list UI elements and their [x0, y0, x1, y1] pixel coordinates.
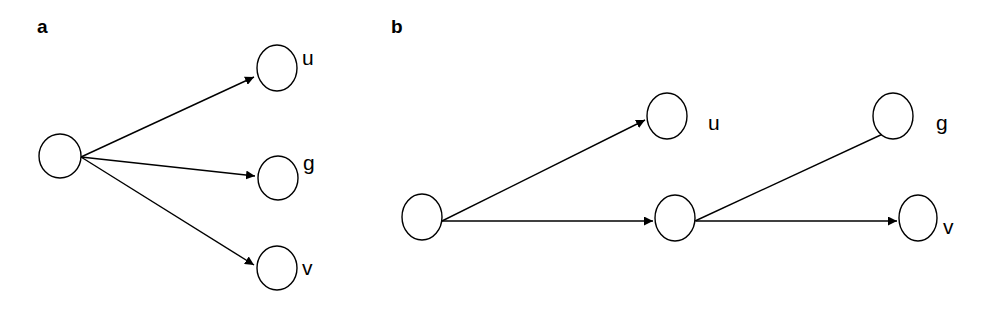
panel-label-a: a: [37, 16, 48, 37]
node-g: [873, 93, 913, 139]
node-label-v: v: [302, 256, 313, 279]
node-v: [899, 195, 937, 241]
panel-b: b u g v: [391, 16, 954, 241]
node-label-g: g: [303, 151, 315, 174]
diagram-canvas: a u g v b u g v: [0, 0, 990, 309]
node-v: [257, 246, 297, 290]
panel-a: a u g v: [37, 16, 315, 290]
edge-mid-g: [695, 120, 913, 221]
node-label-u: u: [708, 111, 720, 134]
node-root: [402, 194, 442, 240]
node-u: [647, 93, 687, 139]
node-root: [39, 134, 81, 178]
edge-root-u: [442, 120, 645, 221]
node-mid: [655, 195, 695, 241]
node-label-v: v: [943, 215, 954, 238]
node-u: [257, 45, 297, 91]
edge-root-u: [81, 77, 254, 157]
node-g: [258, 156, 298, 200]
node-label-u: u: [302, 46, 314, 69]
node-label-g: g: [936, 111, 948, 134]
panel-label-b: b: [391, 16, 403, 37]
